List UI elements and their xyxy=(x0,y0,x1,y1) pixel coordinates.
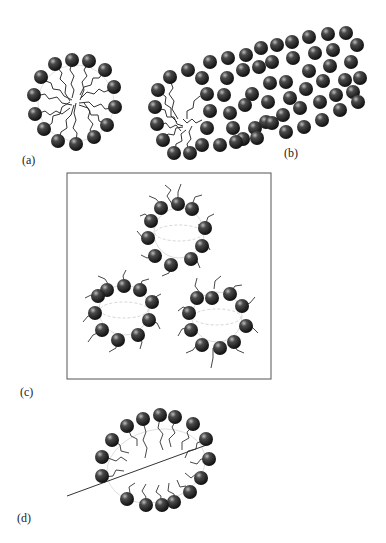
panel-c-vesicle-cluster xyxy=(67,173,271,379)
micelle-diagram xyxy=(0,0,386,543)
panel-b-label: (b) xyxy=(284,146,298,161)
panel-b-cylindrical-micelle xyxy=(148,26,367,160)
panel-c-label: (c) xyxy=(20,385,33,400)
panel-a-label: (a) xyxy=(22,153,35,168)
panel-d-polymer-micelle xyxy=(67,408,216,514)
panel-a-spherical-micelle xyxy=(27,53,122,151)
panel-d-label: (d) xyxy=(17,511,31,526)
